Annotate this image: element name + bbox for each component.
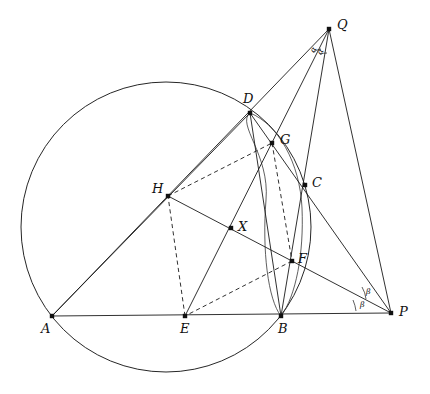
point-label-p: P bbox=[399, 305, 408, 318]
segment-a-p bbox=[52, 313, 391, 316]
segment-q-p bbox=[329, 29, 391, 313]
vertex-dot-c bbox=[303, 183, 307, 187]
angle-label-beta-2: β bbox=[360, 301, 365, 309]
segment-d-b bbox=[250, 113, 281, 316]
point-label-g: G bbox=[280, 133, 290, 146]
point-label-e: E bbox=[180, 322, 190, 335]
point-label-b: B bbox=[278, 322, 288, 335]
vertex-dot-b bbox=[279, 314, 283, 318]
point-label-h: H bbox=[152, 182, 163, 195]
point-label-d: D bbox=[243, 92, 253, 105]
segment-h-g bbox=[168, 143, 272, 196]
vertex-dot-x bbox=[229, 226, 233, 230]
vertex-dot-q bbox=[327, 27, 331, 31]
segment-h-p bbox=[168, 196, 391, 313]
vertex-dot-h bbox=[166, 194, 170, 198]
point-label-a: A bbox=[41, 322, 50, 335]
vertex-dot-a bbox=[50, 314, 54, 318]
point-label-f: F bbox=[298, 252, 307, 265]
segment-q-b bbox=[281, 29, 329, 316]
vertex-dot-f bbox=[290, 259, 294, 263]
vertex-dot-e bbox=[183, 314, 187, 318]
vertex-dot-p bbox=[389, 311, 393, 315]
angle-label-beta-1: β bbox=[366, 288, 371, 296]
point-label-x: X bbox=[238, 220, 247, 233]
segment-e-h bbox=[168, 196, 185, 316]
geometry-canvas bbox=[0, 0, 430, 394]
segment-g-f bbox=[272, 143, 292, 261]
point-label-q: Q bbox=[337, 18, 348, 31]
vertex-dot-g bbox=[270, 141, 274, 145]
segment-q-e bbox=[185, 29, 329, 316]
angle-arc-beta-2 bbox=[353, 300, 356, 311]
segment-a-h-d bbox=[52, 113, 250, 316]
geometry-figure: A B C D E F G H X P Q α α β β bbox=[0, 0, 430, 394]
point-label-c: C bbox=[312, 176, 322, 189]
vertex-dot-d bbox=[248, 111, 252, 115]
